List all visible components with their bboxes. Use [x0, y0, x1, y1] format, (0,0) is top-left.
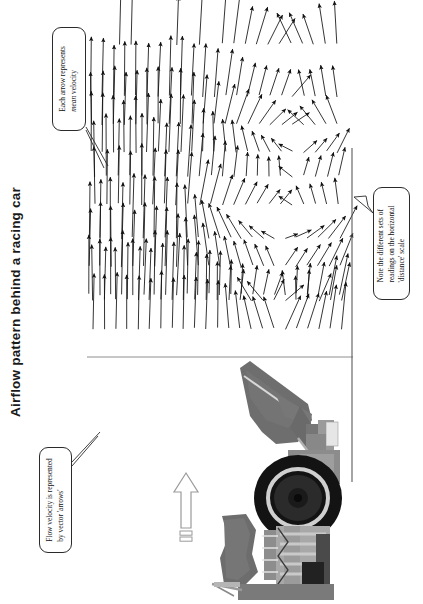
velocity-arrow [161, 271, 162, 329]
velocity-arrow-group [89, 0, 357, 329]
velocity-arrow [188, 152, 192, 203]
velocity-arrow [237, 89, 249, 124]
velocity-arrow [225, 283, 229, 328]
velocity-arrow [261, 231, 274, 239]
velocity-arrow [296, 230, 312, 237]
velocity-arrow [280, 190, 292, 204]
velocity-arrow [312, 100, 326, 124]
velocity-arrow [215, 231, 220, 266]
velocity-arrow [136, 96, 137, 153]
velocity-arrow [286, 247, 298, 265]
velocity-arrow [269, 190, 280, 204]
velocity-arrow [266, 246, 274, 266]
velocity-arrow [124, 100, 125, 152]
velocity-arrow [328, 216, 345, 239]
velocity-arrow [296, 266, 297, 294]
velocity-arrow [296, 248, 308, 267]
velocity-arrow [199, 0, 202, 45]
velocity-arrow [177, 0, 179, 45]
velocity-arrow [229, 266, 231, 300]
velocity-arrow [315, 156, 321, 177]
velocity-arrow [153, 117, 154, 176]
velocity-arrow [286, 296, 301, 330]
velocity-arrow [328, 152, 334, 176]
velocity-arrow [264, 269, 269, 294]
velocity-arrow [339, 147, 345, 175]
velocity-arrow [248, 94, 262, 123]
velocity-arrow [199, 133, 203, 176]
velocity-arrow [144, 239, 146, 295]
velocity-arrow [270, 109, 286, 125]
velocity-arrow [154, 230, 155, 294]
callout-distance-scale-text: Note the different sets of readings on t… [375, 205, 407, 282]
velocity-arrow [234, 0, 240, 43]
velocity-arrow [237, 57, 243, 95]
velocity-arrow [249, 226, 264, 239]
velocity-arrow [224, 236, 230, 267]
velocity-arrow [304, 141, 318, 153]
velocity-arrow [315, 138, 327, 152]
velocity-arrow [131, 0, 132, 45]
velocity-arrow [335, 178, 338, 204]
velocity-arrow [270, 68, 279, 95]
velocity-arrow [138, 276, 139, 330]
callout-flow-velocity-text: Flow velocity is represented by vector '… [45, 458, 66, 542]
velocity-arrow [244, 240, 253, 265]
velocity-arrow [200, 160, 209, 205]
velocity-arrow [282, 69, 291, 95]
velocity-arrow [257, 184, 268, 203]
velocity-arrow [203, 108, 204, 151]
velocity-arrow [308, 293, 319, 328]
velocity-arrow [261, 135, 270, 152]
velocity-arrow [326, 95, 337, 123]
velocity-arrow [158, 99, 160, 151]
velocity-arrow [235, 291, 239, 329]
velocity-arrow [285, 234, 298, 239]
velocity-arrow [209, 203, 220, 238]
velocity-arrow [192, 100, 195, 152]
velocity-arrow [107, 149, 108, 204]
velocity-arrow [219, 251, 220, 295]
velocity-arrow [187, 239, 188, 294]
page-title: Airflow pattern behind a racing car [0, 0, 30, 604]
callout-each-arrow-text: Each arrow represents mean velocity [58, 46, 79, 112]
velocity-arrow [222, 141, 225, 177]
velocity-arrow [218, 280, 219, 327]
velocity-arrow [279, 156, 281, 176]
velocity-arrow [116, 272, 117, 329]
velocity-arrow [310, 184, 316, 204]
velocity-arrow [296, 294, 309, 328]
figure-page: Airflow pattern behind a racing car [0, 0, 423, 604]
racing-car-rear-photo [180, 358, 423, 604]
velocity-arrow [253, 265, 257, 294]
velocity-arrow [255, 244, 264, 266]
velocity-arrow [321, 65, 326, 96]
velocity-arrow [307, 226, 324, 239]
velocity-arrow [234, 241, 241, 267]
velocity-arrow [246, 152, 247, 176]
velocity-arrow [213, 111, 214, 151]
velocity-arrow [259, 100, 275, 123]
velocity-arrow [226, 49, 233, 95]
velocity-arrow [198, 241, 199, 295]
velocity-arrow [232, 120, 236, 152]
velocity-arrow [245, 182, 257, 205]
velocity-arrow [257, 154, 258, 175]
velocity-arrow [239, 221, 253, 238]
velocity-arrow [242, 126, 248, 151]
velocity-arrow [244, 296, 252, 329]
velocity-arrow [206, 254, 207, 300]
velocity-arrow [310, 69, 315, 96]
velocity-arrow [319, 4, 325, 44]
floor-plate [238, 584, 334, 600]
velocity-arrow [203, 44, 206, 98]
velocity-arrow [319, 291, 327, 329]
velocity-arrow [289, 13, 302, 44]
velocity-arrow [120, 0, 121, 44]
velocity-arrow [181, 95, 184, 152]
velocity-arrow [209, 250, 210, 293]
velocity-arrow [304, 157, 309, 175]
velocity-arrow [231, 260, 232, 294]
wheel-hub [294, 494, 302, 502]
velocity-arrow [256, 7, 267, 44]
